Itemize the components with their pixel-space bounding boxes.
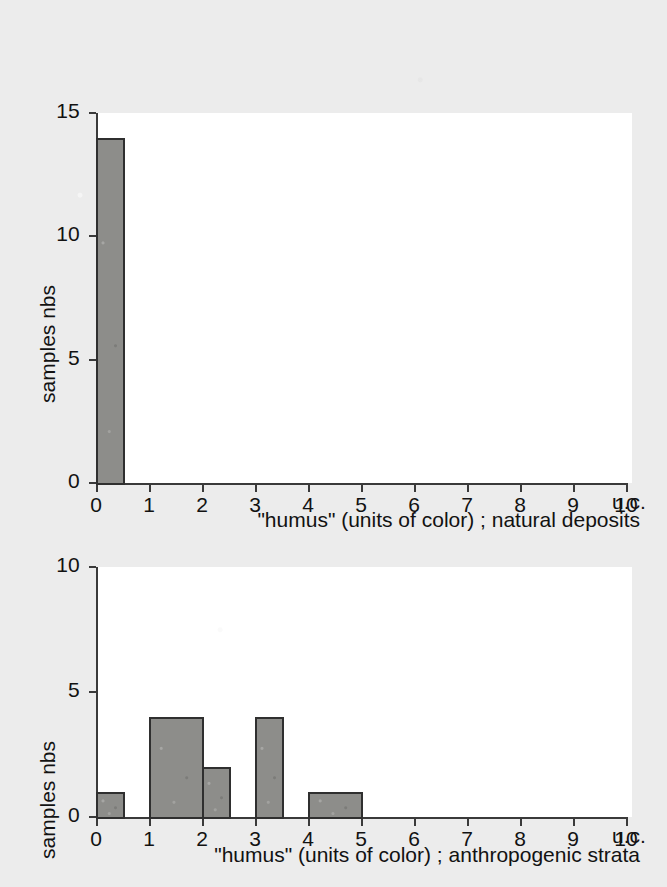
x-tick-label-natural-deposits-5: 5 [336,493,386,517]
bar-anthropogenic-strata-3 [255,717,284,819]
x-tick-label-anthropogenic-strata-5: 5 [336,827,386,851]
y-tick-anthropogenic-strata-0 [89,816,96,818]
x-tick-label-natural-deposits-9: 9 [548,493,598,517]
y-tick-label-natural-deposits-5: 5 [30,346,80,370]
y-axis-line-anthropogenic-strata [96,567,98,819]
bar-anthropogenic-strata-1 [149,717,204,819]
bar-anthropogenic-strata-2 [202,767,231,819]
y-tick-natural-deposits-10 [89,235,96,237]
x-tick-natural-deposits-7 [467,485,469,492]
y-tick-natural-deposits-5 [89,359,96,361]
y-tick-label-anthropogenic-strata-5: 5 [30,678,80,702]
x-tick-label-natural-deposits-8: 8 [495,493,545,517]
bar-natural-deposits-0 [96,138,125,485]
y-tick-label-anthropogenic-strata-0: 0 [30,803,80,827]
y-tick-natural-deposits-0 [89,482,96,484]
x-tick-natural-deposits-5 [361,485,363,492]
x-tick-anthropogenic-strata-6 [414,819,416,826]
y-axis-title-anthropogenic-strata: samples nbs [36,741,60,859]
bar-anthropogenic-strata-4 [308,792,363,819]
x-tick-natural-deposits-1 [149,485,151,492]
chart-panel-natural-deposits: samples nbs u.c. "humus" (units of color… [0,0,667,545]
x-tick-label-natural-deposits-10: 10 [601,493,651,517]
chart-panel-anthropogenic-strata: samples nbs u.c. "humus" (units of color… [0,545,667,887]
y-tick-label-anthropogenic-strata-10: 10 [30,553,80,577]
x-tick-natural-deposits-4 [308,485,310,492]
x-tick-natural-deposits-9 [573,485,575,492]
x-tick-label-anthropogenic-strata-10: 10 [601,827,651,851]
x-tick-label-natural-deposits-0: 0 [71,493,121,517]
x-tick-anthropogenic-strata-8 [520,819,522,826]
x-tick-label-natural-deposits-4: 4 [283,493,333,517]
x-tick-label-anthropogenic-strata-6: 6 [389,827,439,851]
x-tick-anthropogenic-strata-3 [255,819,257,826]
x-tick-anthropogenic-strata-5 [361,819,363,826]
x-tick-label-anthropogenic-strata-4: 4 [283,827,333,851]
x-tick-label-anthropogenic-strata-9: 9 [548,827,598,851]
x-tick-label-anthropogenic-strata-8: 8 [495,827,545,851]
x-tick-anthropogenic-strata-2 [202,819,204,826]
x-tick-anthropogenic-strata-10 [626,819,628,826]
x-tick-label-anthropogenic-strata-0: 0 [71,827,121,851]
y-tick-label-natural-deposits-0: 0 [30,469,80,493]
x-tick-label-anthropogenic-strata-2: 2 [177,827,227,851]
x-tick-natural-deposits-8 [520,485,522,492]
x-tick-natural-deposits-6 [414,485,416,492]
x-tick-label-natural-deposits-6: 6 [389,493,439,517]
plot-area-natural-deposits [96,113,632,483]
x-tick-label-natural-deposits-2: 2 [177,493,227,517]
y-tick-label-natural-deposits-15: 15 [30,99,80,123]
x-tick-label-natural-deposits-1: 1 [124,493,174,517]
x-tick-label-natural-deposits-3: 3 [230,493,280,517]
x-tick-anthropogenic-strata-4 [308,819,310,826]
histogram-figure: samples nbs u.c. "humus" (units of color… [0,0,667,887]
bar-anthropogenic-strata-0 [96,792,125,819]
x-tick-label-anthropogenic-strata-1: 1 [124,827,174,851]
x-tick-natural-deposits-0 [96,485,98,492]
y-axis-title-natural-deposits: samples nbs [36,285,60,403]
x-tick-anthropogenic-strata-7 [467,819,469,826]
y-tick-natural-deposits-15 [89,112,96,114]
y-tick-anthropogenic-strata-10 [89,566,96,568]
x-tick-label-natural-deposits-7: 7 [442,493,492,517]
y-tick-label-natural-deposits-10: 10 [30,222,80,246]
x-tick-anthropogenic-strata-0 [96,819,98,826]
x-tick-natural-deposits-2 [202,485,204,492]
x-tick-anthropogenic-strata-1 [149,819,151,826]
x-tick-natural-deposits-10 [626,485,628,492]
x-tick-anthropogenic-strata-9 [573,819,575,826]
x-tick-natural-deposits-3 [255,485,257,492]
x-tick-label-anthropogenic-strata-3: 3 [230,827,280,851]
x-tick-label-anthropogenic-strata-7: 7 [442,827,492,851]
y-tick-anthropogenic-strata-5 [89,691,96,693]
